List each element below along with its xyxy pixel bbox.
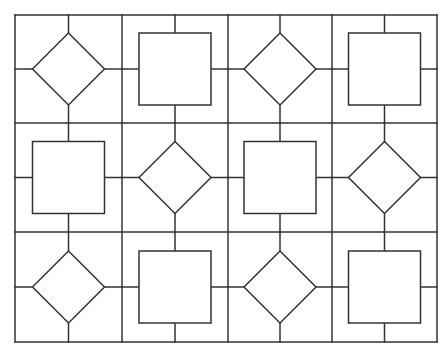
square-shape-r0-c1 <box>139 33 211 105</box>
tile-pattern-diagram <box>0 0 446 356</box>
diamond-shape-r1-c3 <box>349 142 421 214</box>
square-shape-r2-c3 <box>349 251 421 323</box>
diamond-shape-r2-c0 <box>33 251 105 323</box>
diamond-shape-r1-c1 <box>139 142 211 214</box>
square-shape-r0-c3 <box>349 33 421 105</box>
square-shape-r1-c0 <box>33 142 105 214</box>
diamond-shape-r0-c0 <box>33 33 105 105</box>
square-shape-r1-c2 <box>244 142 316 214</box>
diamond-shape-r0-c2 <box>244 33 316 105</box>
square-shape-r2-c1 <box>139 251 211 323</box>
diamond-shape-r2-c2 <box>244 251 316 323</box>
